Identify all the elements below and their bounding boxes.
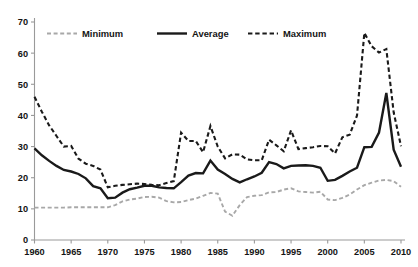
x-tick-label: 2000: [317, 247, 337, 257]
series-line-minimum: [35, 180, 402, 216]
x-tick-label: 1990: [244, 247, 264, 257]
x-tick-label: 2005: [354, 247, 374, 257]
series-line-maximum: [35, 33, 402, 187]
y-tick-label: 70: [18, 17, 28, 27]
y-tick-label: 50: [18, 80, 28, 90]
x-tick-label: 2010: [391, 247, 411, 257]
y-tick-label: 0: [23, 235, 28, 245]
x-tick-label: 1980: [171, 247, 191, 257]
y-tick-label: 20: [18, 173, 28, 183]
y-tick-label: 40: [18, 111, 28, 121]
legend-label-average: Average: [192, 28, 229, 39]
legend-label-maximum: Maximum: [283, 28, 326, 39]
legend-label-minimum: Minimum: [82, 28, 123, 39]
y-tick-label: 60: [18, 49, 28, 59]
x-tick-label: 1960: [24, 247, 44, 257]
x-tick-label: 1970: [98, 247, 118, 257]
x-tick-label: 1965: [61, 247, 81, 257]
legend: MinimumAverageMaximum: [47, 28, 326, 39]
x-tick-label: 1975: [134, 247, 154, 257]
y-axis: 010203040506070: [18, 17, 35, 245]
x-axis: 1960196519701975198019851990199520002005…: [24, 240, 411, 257]
x-tick-label: 1985: [208, 247, 228, 257]
series-group: [35, 33, 402, 216]
line-chart: 0102030405060701960196519701975198019851…: [0, 0, 418, 267]
y-tick-label: 10: [18, 204, 28, 214]
chart-canvas: 0102030405060701960196519701975198019851…: [0, 0, 418, 267]
x-tick-label: 1995: [281, 247, 301, 257]
y-tick-label: 30: [18, 142, 28, 152]
